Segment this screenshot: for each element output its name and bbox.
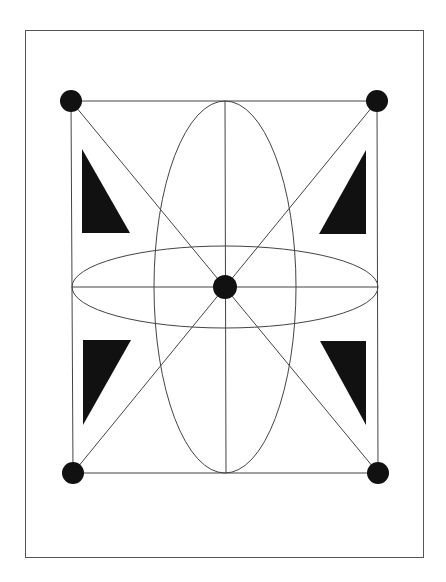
dot-center [213,275,237,299]
dot-bottom-left [62,462,84,484]
dot-bottom-right [367,462,389,484]
triangle-top-left [82,149,130,233]
dot-top-left [60,90,82,112]
triangle-bottom-right [320,341,366,425]
dot-top-right [366,90,388,112]
diagram-svg [0,0,446,582]
triangle-bottom-left [83,340,131,425]
diagram-canvas [0,0,446,582]
